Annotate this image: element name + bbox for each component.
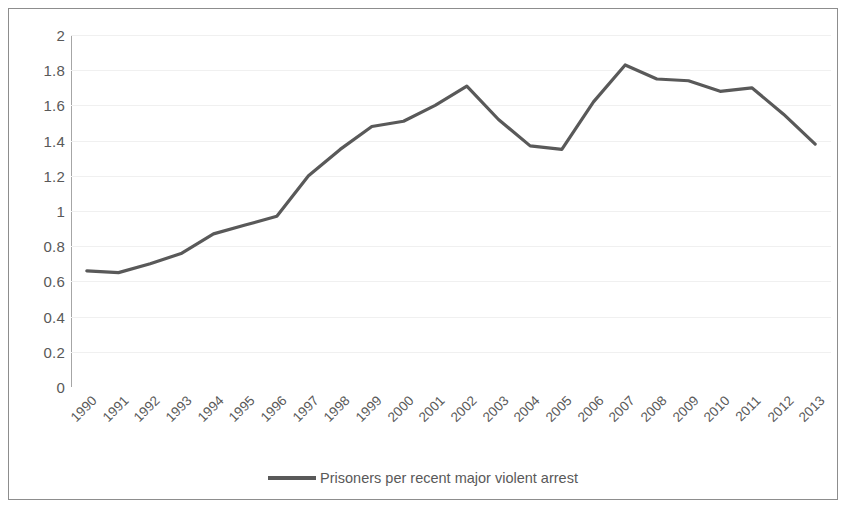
x-tick-label: 2013	[796, 393, 828, 425]
y-tick-label: 1.4	[44, 132, 65, 149]
y-tick-label: 0.8	[44, 238, 65, 255]
chart-legend: Prisoners per recent major violent arres…	[9, 464, 837, 492]
x-tick-label: 1991	[99, 393, 131, 425]
y-tick-label: 1.6	[44, 97, 65, 114]
x-axis: 1990199119921993199419951996199719981999…	[71, 389, 831, 469]
chart-plot-wrapper: 00.20.40.60.811.21.41.61.82 199019911992…	[9, 9, 837, 499]
x-tick-label: 1998	[321, 393, 353, 425]
legend-color-swatch	[268, 476, 316, 480]
x-tick-label: 2011	[732, 393, 763, 424]
x-tick-label: 1990	[68, 393, 100, 425]
x-tick-label: 2009	[669, 393, 701, 425]
x-tick-label: 1999	[353, 393, 385, 425]
x-tick-label: 1997	[289, 393, 321, 425]
x-tick-label: 1996	[258, 393, 290, 425]
y-tick-label: 1	[56, 203, 65, 220]
x-tick-label: 1994	[194, 393, 226, 425]
y-tick-label: 1.8	[44, 62, 65, 79]
y-tick-label: 0.2	[44, 343, 65, 360]
x-tick-label: 1993	[163, 393, 195, 425]
chart-frame: 00.20.40.60.811.21.41.61.82 199019911992…	[8, 8, 838, 500]
x-tick-label: 2002	[448, 393, 480, 425]
y-tick-label: 0.6	[44, 273, 65, 290]
x-tick-label: 2000	[384, 393, 416, 425]
series-line	[87, 65, 815, 273]
x-tick-label: 2012	[764, 393, 796, 425]
y-tick-label: 0.4	[44, 308, 65, 325]
y-axis: 00.20.40.60.811.21.41.61.82	[9, 35, 65, 387]
x-tick-label: 2001	[416, 393, 448, 425]
y-tick-label: 1.2	[44, 167, 65, 184]
x-tick-label: 2003	[479, 393, 511, 425]
x-tick-label: 2006	[574, 393, 606, 425]
x-tick-label: 1992	[131, 393, 163, 425]
x-tick-label: 2007	[606, 393, 638, 425]
x-tick-label: 2008	[638, 393, 670, 425]
y-tick-label: 2	[56, 27, 65, 44]
plot-area	[71, 35, 831, 387]
line-series-prisoners-per-recent-major-violent-arrest	[71, 35, 831, 387]
x-tick-label: 2005	[543, 393, 575, 425]
x-tick-label: 2010	[701, 393, 733, 425]
y-tick-label: 0	[56, 379, 65, 396]
x-tick-label: 1995	[226, 393, 258, 425]
legend-item-label: Prisoners per recent major violent arres…	[320, 470, 578, 486]
x-tick-label: 2004	[511, 393, 543, 425]
